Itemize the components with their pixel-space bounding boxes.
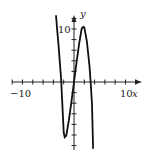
y-tick-label-10: 10 (58, 24, 71, 35)
y-axis-label: y (79, 8, 86, 19)
x-axis-label: x (132, 88, 138, 99)
graph: −10 10 x 10 y (0, 0, 152, 153)
x-tick-label-neg10: −10 (10, 88, 31, 99)
x-tick-label-10: 10 (120, 88, 133, 99)
